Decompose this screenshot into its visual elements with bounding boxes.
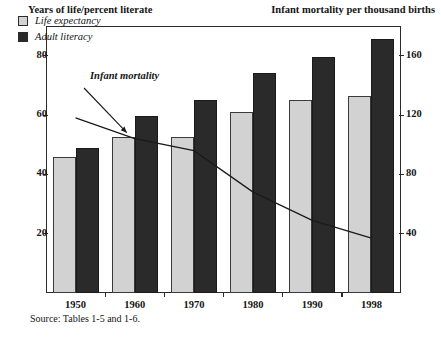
dark-swatch-icon	[18, 32, 28, 42]
right-axis-title: Infant mortality per thousand births	[271, 4, 435, 15]
legend-label-adult-literacy: Adult literacy	[35, 31, 92, 42]
x-tick-mark	[341, 293, 342, 297]
figure-container: Years of life/percent literate Infant mo…	[0, 0, 441, 339]
legend-label-life-expectancy: Life expectancy	[35, 15, 101, 26]
chart-legend: Life expectancy Adult literacy	[18, 14, 101, 46]
left-tick-label: 40	[17, 167, 47, 178]
infant-mortality-annotation: Infant mortality	[90, 70, 159, 81]
left-tick-label: 20	[17, 227, 47, 238]
x-axis-label: 1998	[361, 299, 382, 310]
source-note: Source: Tables 1-5 and 1-6.	[30, 313, 140, 324]
light-swatch-icon	[18, 16, 28, 26]
right-tick-label: 80	[406, 167, 440, 178]
right-tick-label: 120	[406, 108, 440, 119]
x-axis-label: 1990	[302, 299, 323, 310]
left-tick-label: 80	[17, 49, 47, 60]
legend-item-life-expectancy: Life expectancy	[18, 14, 101, 27]
x-axis-label: 1980	[243, 299, 264, 310]
x-tick-mark	[105, 293, 106, 297]
x-axis-label: 1970	[183, 299, 204, 310]
x-axis-label: 1960	[124, 299, 145, 310]
left-tick-label: 60	[17, 108, 47, 119]
x-axis-label: 1950	[65, 299, 86, 310]
legend-item-adult-literacy: Adult literacy	[18, 30, 101, 43]
plot-area: 20406080 4080120160 19501960197019801990…	[46, 26, 401, 293]
right-tick-label: 40	[406, 227, 440, 238]
x-tick-mark	[164, 293, 165, 297]
x-tick-mark	[223, 293, 224, 297]
right-tick-label: 160	[406, 49, 440, 60]
x-tick-mark	[282, 293, 283, 297]
infant-mortality-line	[46, 26, 401, 293]
